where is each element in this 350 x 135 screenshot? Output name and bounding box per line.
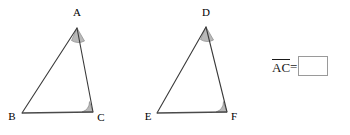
vertex-label-b: B [8, 110, 15, 122]
vertex-label-a: A [73, 6, 81, 18]
triangle-def: D E F [145, 6, 237, 122]
answer-area: AC = [272, 52, 328, 80]
segment-ac-label: AC [272, 59, 290, 74]
vertex-label-c: C [97, 111, 104, 123]
vertex-label-f: F [231, 110, 237, 122]
segment-ac [77, 28, 93, 112]
geometry-figure-canvas: A B C D E F AC = [0, 0, 350, 135]
vertex-label-d: D [202, 6, 210, 18]
segment-ab [22, 28, 77, 113]
equals-sign: = [290, 60, 297, 73]
segment-df [206, 27, 227, 112]
segment-de [157, 27, 206, 113]
segment-ef [157, 112, 227, 113]
triangle-abc: A B C [8, 6, 104, 123]
answer-input[interactable] [298, 56, 328, 76]
vertex-label-e: E [145, 110, 152, 122]
segment-bc [22, 112, 93, 113]
